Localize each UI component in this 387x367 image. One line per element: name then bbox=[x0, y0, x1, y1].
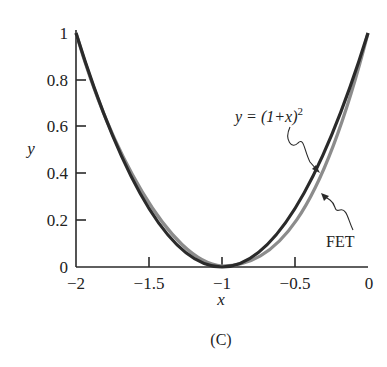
y-tick-label: 0.4 bbox=[47, 164, 69, 183]
x-tick-label: 0 bbox=[365, 274, 374, 293]
x-tick-label: −0.5 bbox=[280, 274, 311, 293]
annotation-equation-superscript: 2 bbox=[297, 105, 303, 117]
x-tick-label: −1.5 bbox=[134, 274, 165, 293]
annotation-equation-text: y = (1+x) bbox=[233, 108, 297, 126]
annotation-equation: y = (1+x)2 bbox=[233, 105, 320, 173]
chart: 0 0.2 0.4 0.6 0.8 1 −2 −1.5 −1 −0.5 0 x … bbox=[0, 0, 387, 367]
y-tick-labels: 0 0.2 0.4 0.6 0.8 1 bbox=[47, 24, 69, 277]
figure-caption: (C) bbox=[210, 331, 231, 349]
svg-text:y = (1+x)2: y = (1+x)2 bbox=[233, 105, 303, 126]
annotation-fet: FET bbox=[321, 193, 355, 250]
y-axis-label: y bbox=[25, 139, 35, 158]
series-parabola-curve bbox=[76, 33, 368, 267]
annotation-fet-arrow bbox=[324, 196, 353, 230]
y-tick-label: 0.2 bbox=[47, 211, 68, 230]
y-tick-label: 1 bbox=[60, 24, 69, 43]
x-axis-label: x bbox=[216, 290, 225, 309]
x-tick-label: −2 bbox=[67, 274, 85, 293]
y-tick-label: 0.8 bbox=[47, 71, 68, 90]
y-tick-label: 0.6 bbox=[47, 117, 68, 136]
arrowhead-icon bbox=[321, 193, 329, 201]
annotation-equation-arrow bbox=[288, 127, 317, 170]
annotation-fet-text: FET bbox=[326, 233, 355, 250]
